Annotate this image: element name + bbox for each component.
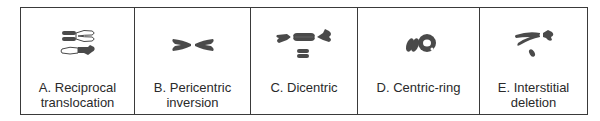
panel-reciprocal-translocation: A. Reciprocal translocation	[21, 8, 135, 114]
interstitial-deletion-chromosome-icon	[480, 22, 587, 68]
pericentric-inversion-chromosome-icon	[135, 22, 250, 68]
panel-label: C. Dicentric	[251, 80, 357, 95]
chromosome-aberrations-figure: A. Reciprocal translocation B. Pericentr…	[20, 7, 588, 115]
reciprocal-translocation-chromosomes-icon	[21, 22, 134, 68]
centric-ring-chromosome-icon	[358, 22, 479, 68]
dicentric-chromosome-icon	[251, 22, 357, 68]
panel-centric-ring: D. Centric-ring	[358, 8, 480, 114]
panel-label: D. Centric-ring	[358, 80, 479, 95]
panel-pericentric-inversion: B. Pericentric inversion	[135, 8, 251, 114]
panel-label: B. Pericentric inversion	[135, 80, 250, 110]
panel-dicentric: C. Dicentric	[251, 8, 358, 114]
panel-label: A. Reciprocal translocation	[21, 80, 134, 110]
panel-interstitial-deletion: E. Interstitial deletion	[480, 8, 587, 114]
panel-label: E. Interstitial deletion	[480, 80, 587, 110]
